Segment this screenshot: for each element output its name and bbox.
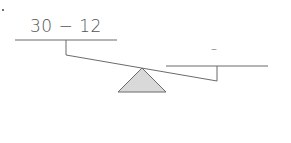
fulcrum-triangle xyxy=(118,68,166,92)
right-expression: – xyxy=(211,42,218,56)
left-expression: 30 − 12 xyxy=(30,16,102,36)
marker-dot xyxy=(2,9,4,11)
